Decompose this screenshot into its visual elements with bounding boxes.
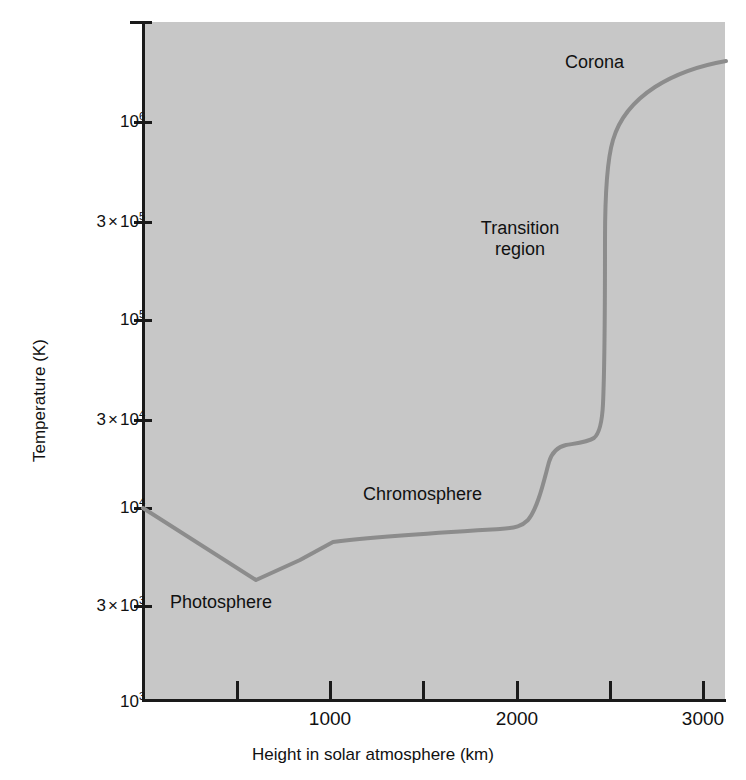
y-tick-label-1e6: 106	[120, 112, 145, 132]
annotation-transition-region-line1: Transition	[460, 218, 580, 239]
annotation-photosphere: Photosphere	[170, 592, 272, 613]
y-tick-label-1e3: 103	[120, 692, 145, 712]
x-tick-label-1000: 1000	[280, 708, 380, 730]
annotation-transition-region: Transition region	[460, 218, 580, 260]
annotation-corona: Corona	[565, 52, 624, 73]
chart-svg	[0, 0, 746, 780]
x-tick-marks	[238, 681, 704, 700]
x-tick-label-2000: 2000	[467, 708, 567, 730]
y-axis-title: Temperature (K)	[30, 339, 50, 462]
figure-canvas: 106 3×105 105 3×104 104 3×103 103 1000 2…	[0, 0, 746, 780]
x-tick-label-3000: 3000	[653, 708, 746, 730]
y-tick-label-3e4: 3×104	[97, 410, 145, 430]
y-tick-label-3e5: 3×105	[97, 212, 145, 232]
x-axis-title: Height in solar atmosphere (km)	[0, 745, 746, 765]
y-tick-label-1e5: 105	[120, 310, 145, 330]
y-tick-label-3e3: 3×103	[97, 596, 145, 616]
annotation-chromosphere: Chromosphere	[363, 484, 482, 505]
y-tick-label-1e4: 104	[120, 498, 145, 518]
annotation-transition-region-line2: region	[460, 239, 580, 260]
